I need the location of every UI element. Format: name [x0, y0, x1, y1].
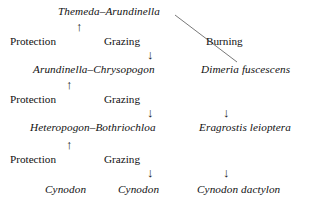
- node-themeda-arundinella: Themeda–Arundinella: [58, 6, 160, 17]
- factor-protection-row1: Protection: [10, 36, 56, 47]
- arrow-down-icon-right-low: [223, 166, 230, 179]
- factor-grazing-row1: Grazing: [104, 36, 140, 47]
- arrow-down-icon-grazing-low: [147, 166, 154, 179]
- node-arundinella-chrysopogon: Arundinella–Chrysopogon: [33, 64, 155, 75]
- succession-diagram: Themeda–Arundinella Arundinella–Chrysopo…: [0, 0, 313, 206]
- arrow-up-icon-protection-mid: [66, 78, 73, 91]
- node-cynodon-left: Cynodon: [45, 184, 86, 195]
- arrow-down-icon-grazing-mid: [147, 106, 154, 119]
- factor-grazing-row2: Grazing: [104, 94, 140, 105]
- arrow-up-icon-protection-low: [66, 138, 73, 151]
- factor-protection-row2: Protection: [10, 94, 56, 105]
- node-heteropogon-bothriochloa: Heteropogon–Bothriochloa: [30, 122, 156, 133]
- factor-burning-row1: Burning: [206, 36, 243, 47]
- factor-protection-row3: Protection: [10, 154, 56, 165]
- node-cynodon-dactylon: Cynodon dactylon: [197, 184, 280, 195]
- arrow-down-icon-right-mid: [223, 106, 230, 119]
- node-dimeria-fuscescens: Dimeria fuscescens: [201, 64, 290, 75]
- factor-grazing-row3: Grazing: [104, 154, 140, 165]
- arrow-up-icon-protection-top: [76, 20, 83, 33]
- node-cynodon-middle: Cynodon: [118, 184, 159, 195]
- node-eragrostis-leioptera: Eragrostis leioptera: [199, 122, 291, 133]
- arrow-down-icon-grazing-top: [147, 48, 154, 61]
